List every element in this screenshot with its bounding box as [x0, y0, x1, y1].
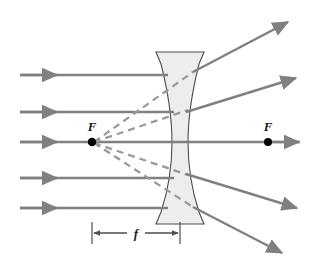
lens-diagram-figure: F F f — [0, 0, 322, 267]
far-focal-point-label: F — [263, 119, 273, 134]
refracted-ray-1 — [193, 22, 288, 72]
refracted-rays-group — [186, 22, 299, 253]
near-focal-point-label: F — [87, 119, 97, 134]
refracted-ray-2 — [186, 78, 296, 112]
focal-length-dimension-group: f — [92, 222, 180, 244]
refracted-ray-4 — [186, 174, 297, 208]
ray-diagram-canvas: F F f — [0, 0, 322, 267]
far-focal-point-dot — [264, 138, 272, 146]
near-focal-point-dot — [88, 138, 96, 146]
focal-length-label: f — [134, 226, 140, 241]
refracted-ray-5 — [193, 207, 282, 253]
